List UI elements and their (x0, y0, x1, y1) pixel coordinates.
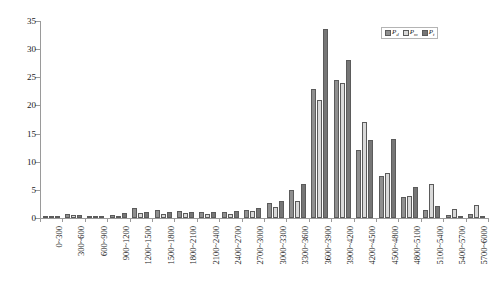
bar-pm (228, 214, 233, 219)
x-axis-label: 5400~5700 (458, 226, 467, 265)
bar-pd (334, 80, 339, 218)
bar-pm (93, 216, 98, 218)
bar-group (354, 21, 376, 218)
bar-pt (234, 211, 239, 218)
x-axis-label: 1500~1800 (167, 226, 176, 265)
bar-group (40, 21, 62, 218)
bar-group (331, 21, 353, 218)
bar-pm (385, 173, 390, 218)
bar-pm (183, 213, 188, 218)
x-tick-mark (331, 218, 332, 222)
x-axis-label: 900~1200 (122, 226, 131, 260)
y-tick-label: 20 (27, 101, 36, 110)
bar-pm (295, 201, 300, 218)
legend-swatch-icon-pd (385, 30, 391, 36)
bar-pt (167, 212, 172, 218)
bar-pm (474, 205, 479, 218)
bar-pm (205, 214, 210, 218)
x-axis-label: 4800~5100 (413, 226, 422, 265)
bar-pd (87, 216, 92, 218)
bar-pd (65, 214, 70, 218)
bar-pd (468, 214, 473, 219)
x-axis-label: 4200~4500 (368, 226, 377, 265)
bar-pd (155, 210, 160, 218)
bar-group (309, 21, 331, 218)
bar-group (107, 21, 129, 218)
x-tick-mark (152, 218, 153, 222)
bar-pd (289, 190, 294, 218)
bar-pm (116, 216, 121, 218)
bar-pm (407, 196, 412, 219)
bar-group (376, 21, 398, 218)
bar-pm (250, 211, 255, 218)
bar-pm (71, 215, 76, 218)
y-tick-label: 15 (27, 129, 36, 138)
x-axis-label: 2400~2700 (234, 226, 243, 265)
bar-pm (49, 216, 54, 218)
bar-group (421, 21, 443, 218)
bar-pt (458, 216, 463, 218)
x-tick-mark (398, 218, 399, 222)
bar-group (466, 21, 488, 218)
x-tick-mark (488, 218, 489, 222)
bar-chart: 05101520253035 0~300300~600600~900900~12… (0, 0, 498, 296)
legend-item-pt: Pt (422, 29, 435, 37)
bar-pd (132, 208, 137, 218)
bar-pd (423, 210, 428, 218)
x-tick-mark (286, 218, 287, 222)
x-axis-label: 5700~6000 (480, 226, 489, 265)
plot-area (40, 21, 488, 218)
bar-pm (452, 209, 457, 218)
bar-pm (362, 122, 367, 218)
bar-pd (199, 212, 204, 218)
bar-group (85, 21, 107, 218)
x-axis-label: 2100~2400 (212, 226, 221, 265)
bar-pd (379, 176, 384, 218)
bar-pt (279, 201, 284, 218)
y-tick-label: 30 (27, 45, 36, 54)
x-tick-mark (174, 218, 175, 222)
bar-pd (267, 203, 272, 218)
x-tick-mark (309, 218, 310, 222)
bar-pt (301, 184, 306, 218)
y-tick-label: 5 (32, 185, 37, 194)
bar-pm (429, 184, 434, 218)
bar-pt (99, 216, 104, 218)
x-axis-label: 300~600 (77, 226, 86, 256)
legend-swatch-icon-pm (403, 30, 409, 36)
bar-pd (222, 212, 227, 218)
x-axis-label: 4500~4800 (391, 226, 400, 265)
bar-pt (77, 215, 82, 218)
y-tick-label: 35 (27, 17, 36, 26)
bar-group (443, 21, 465, 218)
bar-group (264, 21, 286, 218)
x-tick-mark (85, 218, 86, 222)
bar-pt (480, 216, 485, 218)
x-axis-label: 1800~2100 (189, 226, 198, 265)
bar-group (152, 21, 174, 218)
bar-pd (401, 197, 406, 218)
legend-item-pm: Pm (403, 29, 418, 37)
bar-pt (189, 212, 194, 218)
x-axis-label: 3000~3300 (279, 226, 288, 265)
bar-pd (244, 210, 249, 218)
x-axis-label: 3900~4200 (346, 226, 355, 265)
y-tick-label: 10 (27, 157, 36, 166)
x-tick-mark (242, 218, 243, 222)
bar-pd (356, 150, 361, 218)
bar-pd (311, 89, 316, 218)
bar-pt (346, 60, 351, 218)
x-tick-mark (264, 218, 265, 222)
bar-group (174, 21, 196, 218)
bar-pd (43, 216, 48, 218)
bar-pt (368, 140, 373, 218)
bar-pt (256, 208, 261, 218)
x-axis-label: 600~900 (100, 226, 109, 256)
bar-pt (323, 29, 328, 218)
x-axis-label: 0~300 (55, 226, 64, 248)
bar-pd (446, 215, 451, 218)
bar-pt (55, 216, 60, 218)
legend-label-pt: Pt (429, 29, 435, 37)
bar-pt (144, 212, 149, 218)
x-tick-mark (443, 218, 444, 222)
